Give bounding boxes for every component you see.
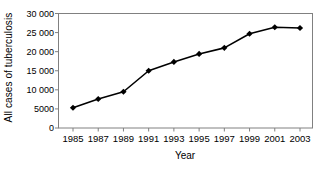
x-axis-tick-labels: 1985198719891991199319951997199920012003 <box>0 133 325 147</box>
x-axis-tick-label: 2003 <box>285 133 315 144</box>
axis-frame <box>59 14 313 129</box>
x-axis-tick-marks <box>73 128 300 132</box>
x-axis-title: Year <box>58 150 312 162</box>
plot-frame-rect <box>59 14 313 129</box>
plot-area <box>0 0 325 173</box>
chart-figure: All cases of tuberculosis 0500010 00015 … <box>0 0 325 173</box>
y-axis-tick-marks <box>55 14 59 129</box>
